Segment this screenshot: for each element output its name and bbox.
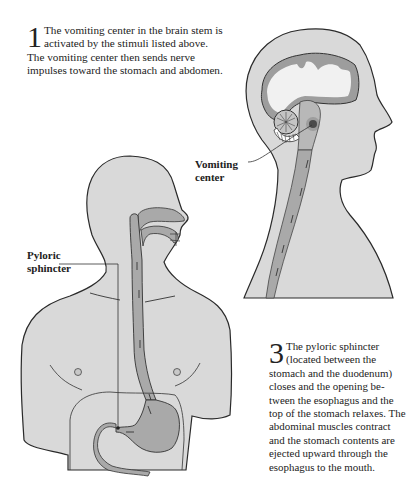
- step-1-number: 1: [27, 25, 42, 49]
- step-3-description: 3 The pyloric sphincter (located between…: [269, 340, 407, 474]
- pyloric-sphincter-label-line1: Pyloric: [27, 249, 71, 262]
- vomiting-center-label-line2: center: [195, 171, 238, 184]
- pyloric-sphincter-label: Pyloric sphincter: [27, 249, 71, 274]
- torso-illustration: [21, 156, 231, 476]
- vomiting-center-label-line1: Vomiting: [195, 158, 238, 171]
- pyloric-sphincter-label-line2: sphincter: [27, 262, 71, 275]
- step-1-text: The vomiting center in the brain stem is…: [27, 24, 223, 76]
- step-1-description: 1 The vomiting center in the brain stem …: [27, 24, 227, 78]
- step-3-text: The pyloric sphincter (located between t…: [269, 340, 406, 473]
- vomiting-process-diagram: 1 The vomiting center in the brain stem …: [0, 0, 407, 492]
- head-profile-illustration: [244, 29, 393, 298]
- vomiting-center-label: Vomiting center: [195, 158, 238, 183]
- step-3-number: 3: [269, 341, 284, 365]
